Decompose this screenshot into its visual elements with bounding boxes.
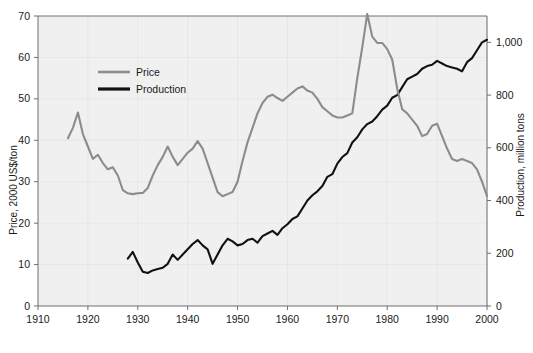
y-axis-left-tick-label: 20 — [18, 217, 30, 229]
y-axis-right-tick-label: 800 — [496, 89, 514, 101]
plot-background — [38, 16, 487, 306]
x-axis-tick-label: 1960 — [276, 313, 300, 325]
y-axis-left-tick-label: 40 — [18, 134, 30, 146]
y-axis-left-tick-label: 0 — [24, 300, 30, 312]
y-axis-right-tick-label: 400 — [496, 194, 514, 206]
y-axis-left-tick-label: 30 — [18, 175, 30, 187]
y-axis-right-tick-label: 1,000 — [496, 36, 522, 48]
x-axis-tick-label: 1940 — [176, 313, 200, 325]
x-axis-tick-label: 1950 — [226, 313, 250, 325]
y-axis-right-tick-label: 0 — [496, 300, 502, 312]
y-axis-left-tick-label: 50 — [18, 92, 30, 104]
legend-label-production: Production — [136, 83, 186, 95]
y-axis-right-title: Production, million tons — [515, 113, 526, 216]
y-axis-left-tick-label: 10 — [18, 258, 30, 270]
x-axis-tick-label: 1980 — [376, 313, 400, 325]
legend-label-price: Price — [136, 66, 160, 78]
x-axis-ticks: 1910192019301940195019601970198019902000 — [26, 306, 499, 325]
y-axis-left-ticks: 010203040506070 — [18, 10, 38, 312]
x-axis-tick-label: 2000 — [475, 313, 499, 325]
y-axis-left-title: Price, 2000 US$/ton — [8, 145, 19, 235]
chart-container: 010203040506070 02004006008001,000 19101… — [0, 0, 533, 353]
x-axis-tick-label: 1910 — [26, 313, 50, 325]
y-axis-right-tick-label: 600 — [496, 141, 514, 153]
x-axis-tick-label: 1920 — [76, 313, 100, 325]
y-axis-right-tick-label: 200 — [496, 247, 514, 259]
y-axis-left-tick-label: 70 — [18, 10, 30, 22]
x-axis-tick-label: 1930 — [126, 313, 150, 325]
y-axis-left-tick-label: 60 — [18, 51, 30, 63]
x-axis-tick-label: 1990 — [425, 313, 449, 325]
dual-axis-line-chart: 010203040506070 02004006008001,000 19101… — [0, 0, 533, 353]
x-axis-tick-label: 1970 — [326, 313, 350, 325]
